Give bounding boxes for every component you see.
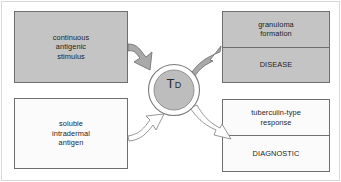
arrow-continuous-to-hub: [128, 44, 152, 70]
arrow-hub-to-tuberculin: [190, 105, 231, 139]
hub-label-subscript: D: [175, 80, 182, 90]
arrow-soluble-to-hub: [128, 114, 164, 141]
hub-label-td: TD: [148, 76, 200, 91]
hub-label-main: T: [167, 76, 175, 91]
diagram-canvas: continuous antigenic stimulus soluble in…: [0, 0, 341, 182]
arrow-hub-to-granuloma: [192, 46, 221, 78]
connector-overlay: [0, 0, 341, 182]
